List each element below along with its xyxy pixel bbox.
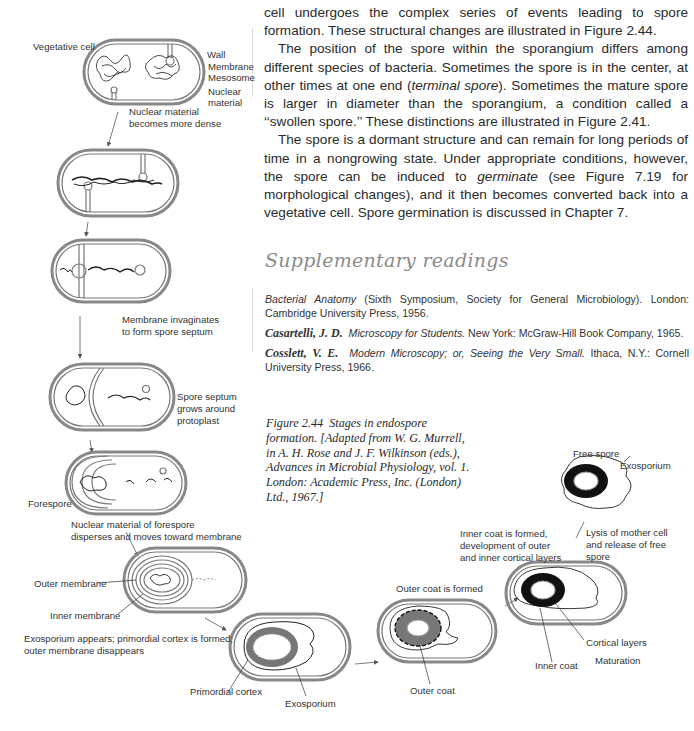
label-step4-b: grows around [177,403,235,415]
body-text: cell undergoes the complex series of eve… [264,4,688,222]
label-membrane: Membrane [208,61,254,73]
label-inner-membrane: Inner membrane [50,610,120,622]
cell-stage-6 [124,548,246,612]
forespore-drawing [66,452,186,514]
vegetative-cell-drawing [84,40,204,104]
term-germinate: germinate [477,169,537,184]
label-step5-b: disperses and moves toward membrane [71,531,242,543]
label-step3-b: to form spore septum [122,326,213,338]
label-step1-a: Nuclear material [129,106,199,118]
label-nuclear-material: Nuclear [208,86,241,98]
label-lysis-c: spore [586,551,610,563]
label-nuclear-material-2: material [208,97,242,109]
reference-item: Casartelli, J. D. Microscopy for Student… [265,326,689,340]
label-cortical-layers: Cortical layers [586,637,647,649]
label-step7-a: Exosporium appears; primordial cortex is… [24,633,233,645]
label-step4-a: Spore septum [177,391,237,403]
figure-caption: Figure 2.44 Stages in endospore formatio… [266,416,471,505]
cell-stage-9 [506,562,626,624]
paragraph-3: The spore is a dormant structure and can… [264,131,688,222]
label-vegetative-cell: Vegetative cell [33,41,95,53]
cell-stage-3 [52,240,170,302]
label-outer-membrane: Outer membrane [34,578,107,590]
label-step9-c: and inner cortical layers [460,552,561,564]
label-step4-c: protoplast [177,415,219,427]
label-step9-a: Inner coat is formed, [460,528,547,540]
cell-stage-4 [50,364,174,430]
reference-list: Bacterial Anatomy (Sixth Symposium, Soci… [265,292,689,380]
label-wall: Wall [207,49,225,61]
label-outer-coat-formed: Outer coat is formed [396,583,483,595]
label-lysis-b: and release of free [586,539,666,551]
label-maturation: Maturation [595,655,640,667]
label-free-spore: Free spore [573,448,619,460]
label-forespore: Forespore [28,498,72,510]
term-terminal-spore: terminal spore [411,78,498,93]
label-step5-a: Nuclear material of forespore [71,519,195,531]
paragraph-2: The position of the spore within the spo… [264,40,688,131]
cell-stage-7 [230,614,350,680]
label-outer-coat: Outer coat [410,685,455,697]
label-exosporium-2: Exosporium [620,460,671,472]
label-step3-a: Membrane invaginates [122,314,219,326]
label-step1-b: becomes more dense [129,118,221,130]
label-exosporium-1: Exosporium [285,698,336,710]
cell-stage-8 [378,600,496,662]
label-mesosome: Mesosome [208,72,255,84]
paragraph-1: cell undergoes the complex series of eve… [264,4,688,40]
label-step7-b: outer membrane disappears [24,645,144,657]
label-step9-b: development of outer [460,540,550,552]
reference-item: Cosslett, V. E. Modern Microscopy; or, S… [265,346,689,374]
figure-number: Figure 2.44 [266,416,323,430]
label-primordial-cortex: Primordial cortex [190,686,262,698]
label-inner-coat: Inner coat [535,660,578,672]
reference-item: Bacterial Anatomy (Sixth Symposium, Soci… [265,292,689,320]
section-heading-supplementary-readings: Supplementary readings [265,249,509,271]
label-lysis-a: Lysis of mother cell [586,527,668,539]
